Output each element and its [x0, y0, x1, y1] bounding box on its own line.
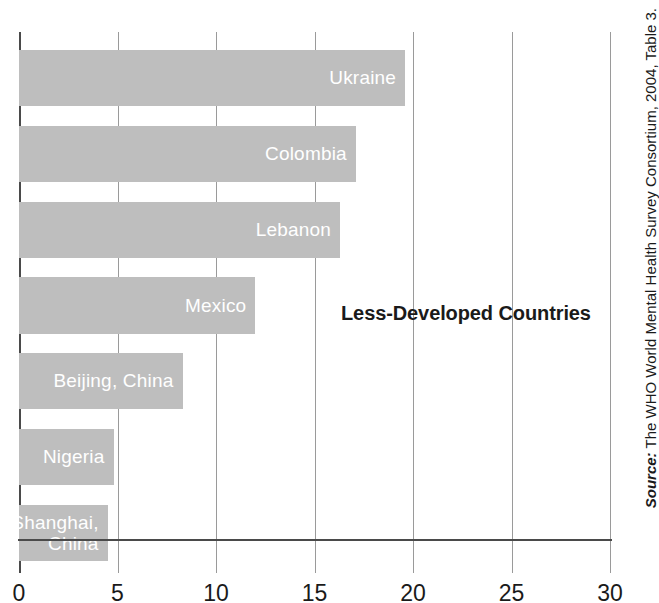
bar-row: Colombia — [19, 116, 610, 192]
x-tick-0: 0 — [13, 580, 26, 603]
source-prefix: Source: — [642, 452, 659, 508]
x-tick-10: 10 — [203, 580, 229, 603]
plot-area: UkraineColombiaLebanonMexicoBeijing, Chi… — [19, 32, 610, 540]
x-tick-25: 25 — [499, 580, 525, 603]
bar-label: Colombia — [265, 144, 347, 164]
x-tick-30: 30 — [597, 580, 623, 603]
bar[interactable]: Beijing, China — [19, 353, 183, 409]
x-axis-tick-labels: 051015202530 — [19, 580, 610, 603]
source-body: The WHO World Mental Health Survey Conso… — [642, 8, 659, 452]
bar-label: Mexico — [185, 296, 246, 316]
bar-label: Ukraine — [329, 68, 396, 88]
source-note: Source: The WHO World Mental Health Surv… — [622, 0, 652, 603]
bar[interactable]: Lebanon — [19, 202, 340, 258]
bar-row: Beijing, China — [19, 343, 610, 419]
x-tick-20: 20 — [400, 580, 426, 603]
bar[interactable]: Nigeria — [19, 429, 114, 485]
chart-annotation: Less-Developed Countries — [341, 302, 591, 325]
x-tick-5: 5 — [111, 580, 124, 603]
bar-label: Beijing, China — [53, 371, 173, 391]
bar[interactable]: Shanghai, China — [19, 505, 108, 561]
bar-label: Shanghai, China — [11, 512, 98, 555]
bar-label: Nigeria — [43, 447, 105, 467]
bar-row: Lebanon — [19, 192, 610, 268]
bar-series: UkraineColombiaLebanonMexicoBeijing, Chi… — [19, 32, 610, 540]
bar[interactable]: Ukraine — [19, 50, 405, 106]
bar-row: Shanghai, China — [19, 495, 610, 571]
bar[interactable]: Colombia — [19, 126, 356, 182]
x-axis-line — [18, 539, 612, 541]
gridline-30 — [610, 32, 611, 573]
bar-label: Lebanon — [256, 220, 331, 240]
bar-row: Ukraine — [19, 40, 610, 116]
x-tick-15: 15 — [302, 580, 328, 603]
bar-row: Nigeria — [19, 419, 610, 495]
bar[interactable]: Mexico — [19, 277, 255, 333]
